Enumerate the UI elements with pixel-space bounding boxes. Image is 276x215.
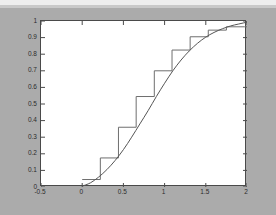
x-tick-label: -0.5 xyxy=(34,188,45,196)
y-axis-tick-labels: 00.10.20.30.40.50.60.70.80.91 xyxy=(16,20,37,186)
y-tick-label: 0.7 xyxy=(28,66,37,73)
x-tick-label: 0 xyxy=(79,188,83,196)
y-tick-label: 0.2 xyxy=(28,149,37,156)
top-band-divider xyxy=(0,5,276,8)
y-tick-label: 0.3 xyxy=(28,133,37,140)
y-tick-label: 1 xyxy=(33,17,37,24)
theoretical-cdf-curve xyxy=(82,22,247,186)
x-tick-label: 0.5 xyxy=(118,188,127,196)
y-tick-label: 0.5 xyxy=(28,100,37,107)
x-axis-tick-labels: -0.500.511.52 xyxy=(40,188,246,198)
x-tick-label: 1 xyxy=(162,188,166,196)
y-tick-label: 0.4 xyxy=(28,116,37,123)
plot-area xyxy=(40,20,246,186)
y-tick-label: 0.9 xyxy=(28,33,37,40)
y-tick-label: 0.1 xyxy=(28,166,37,173)
x-tick-label: 1.5 xyxy=(200,188,209,196)
empirical-step-cdf-line xyxy=(82,27,247,180)
y-tick-label: 0.6 xyxy=(28,83,37,90)
figure-canvas: 00.10.20.30.40.50.60.70.80.91 -0.500.511… xyxy=(0,0,276,215)
plot-svg xyxy=(41,21,247,187)
axis-ticks xyxy=(41,21,247,187)
y-tick-label: 0.8 xyxy=(28,50,37,57)
x-tick-label: 2 xyxy=(244,188,248,196)
